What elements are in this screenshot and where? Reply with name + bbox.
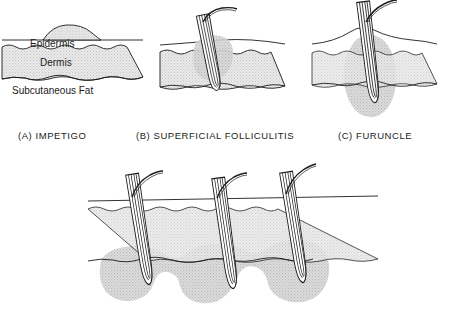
dermis-band-a [2,45,143,80]
panel-caption-superficial-folliculitis: (B) SUPERFICIAL FOLLICULITIS [136,130,294,141]
layer-label-dermis: Dermis [40,57,72,68]
panel-caption-furuncle: (C) FURUNCLE [338,130,412,141]
panel-caption-impetigo: (A) IMPETIGO [18,130,86,141]
layer-label-epidermis: Epidermis [30,38,74,49]
layer-label-subcutaneous-fat: Subcutaneous Fat [12,85,93,96]
